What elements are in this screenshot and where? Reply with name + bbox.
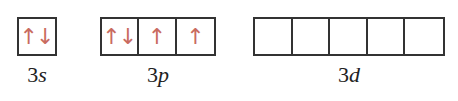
orbital-boxes-3d [253,17,445,56]
subshell-3d [253,17,445,56]
orbital-box [330,19,368,54]
orbital-box [405,19,443,54]
orbital-boxes-3p: ↑ ↓ ↑ ↑ [100,17,216,56]
subshell-label-3d: 3d [253,62,445,88]
orbital-boxes-3s: ↑ ↓ [17,17,57,56]
subshell-3p: ↑ ↓ ↑ ↑ [100,17,216,56]
subshell-label-3s: 3s [17,62,57,88]
spin-down-arrow-icon: ↓ [36,26,54,48]
orbital-box [368,19,406,54]
orbital-box: ↑ ↓ [19,19,55,54]
orbital-box: ↑ ↓ [102,19,139,54]
orbital-box: ↑ [139,19,176,54]
orbital-box [255,19,293,54]
orbital-box [293,19,331,54]
spin-up-arrow-icon: ↑ [186,26,204,48]
spin-down-arrow-icon: ↓ [119,26,137,48]
orbital-box: ↑ [177,19,214,54]
spin-up-arrow-icon: ↑ [148,26,166,48]
subshell-label-3p: 3p [100,62,216,88]
subshell-3s: ↑ ↓ [17,17,57,56]
